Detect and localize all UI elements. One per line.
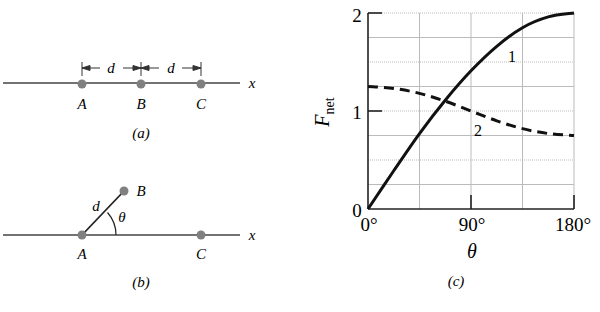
x-axis-label: θ <box>467 240 477 262</box>
length-label: d <box>92 198 100 214</box>
x-tick-90: 90° <box>459 214 486 235</box>
y-axis-label: Fnet <box>311 97 337 127</box>
label-c: C <box>196 246 207 262</box>
charge-c <box>197 231 206 240</box>
x-tick-0: 0° <box>360 214 377 235</box>
charge-a <box>78 80 87 89</box>
curve-2-label: 2 <box>474 122 482 139</box>
caption-b: (b) <box>132 274 150 291</box>
label-b: B <box>136 183 145 199</box>
panel-a: d d A B C x (a) <box>3 60 256 142</box>
curve-1-label: 1 <box>508 48 516 65</box>
panel-c-chart: 1 2 2 1 0 0° 90° 180° θ Fnet (c) <box>311 5 591 290</box>
charge-a <box>78 231 87 240</box>
y-axis-label-main: F <box>311 114 333 128</box>
y-tick-2: 2 <box>352 5 362 26</box>
chart-grid <box>368 13 574 209</box>
dimension-arrows <box>82 62 201 76</box>
angle-label: θ <box>118 209 126 225</box>
panel-b: d θ B A C x (b) <box>3 183 256 291</box>
axis-label-x: x <box>248 75 256 91</box>
charge-b <box>137 80 146 89</box>
charge-b <box>120 187 129 196</box>
label-b: B <box>136 96 145 112</box>
axis-label-x: x <box>248 227 256 243</box>
caption-a: (a) <box>132 125 150 142</box>
y-tick-1: 1 <box>352 102 362 123</box>
svg-text:Fnet: Fnet <box>311 97 337 127</box>
figure: d d A B C x (a) d θ B A C x (b) <box>0 0 600 312</box>
caption-c: (c) <box>448 273 465 290</box>
charge-c <box>197 80 206 89</box>
spacing-label-ab: d <box>107 60 115 76</box>
y-axis-label-sub: net <box>322 97 337 114</box>
x-tick-180: 180° <box>555 214 591 235</box>
label-c: C <box>196 96 207 112</box>
label-a: A <box>76 246 87 262</box>
spacing-label-bc: d <box>167 60 175 76</box>
label-a: A <box>76 96 87 112</box>
angle-arc <box>108 213 117 236</box>
